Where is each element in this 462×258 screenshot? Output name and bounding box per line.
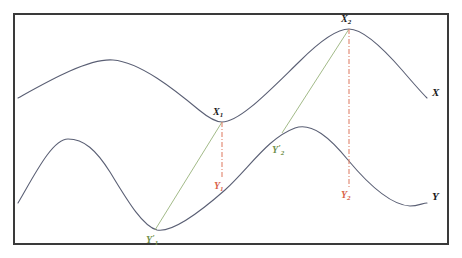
- label-x2-base: X: [341, 13, 348, 24]
- label-y1: Y1: [214, 181, 224, 193]
- label-x1-base: X: [213, 106, 220, 117]
- green-connector-2: [282, 29, 349, 133]
- label-y1-prime: Y'1: [146, 234, 158, 247]
- label-y1-prime-subscript: 1: [155, 239, 159, 247]
- label-x2: X2: [341, 14, 351, 26]
- figure-container: X1 Y1 X2 Y2 Y'1 Y'2 X Y: [0, 0, 462, 258]
- curve-label-x: X: [432, 86, 439, 98]
- label-y2-subscript: 2: [347, 194, 351, 202]
- curve-label-y: Y: [432, 190, 439, 202]
- label-y2-prime-subscript: 2: [281, 149, 285, 157]
- label-x2-subscript: 2: [348, 18, 352, 26]
- curves-svg: [0, 0, 462, 258]
- green-connector-1: [155, 122, 222, 230]
- label-y1-subscript: 1: [220, 185, 224, 193]
- label-y2-prime: Y'2: [272, 144, 284, 157]
- label-x1-subscript: 1: [220, 111, 224, 119]
- label-y2: Y2: [341, 190, 351, 202]
- label-x1: X1: [213, 107, 223, 119]
